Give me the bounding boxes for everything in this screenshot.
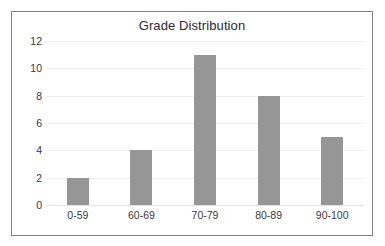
- y-tick-label: 10: [12, 62, 42, 74]
- bar-slot: [300, 41, 364, 205]
- bar[interactable]: [67, 178, 89, 205]
- y-tick-label: 2: [12, 172, 42, 184]
- bar-slot: [237, 41, 301, 205]
- bar-slot: [46, 41, 110, 205]
- chart-frame: Grade Distribution 024681012 0-5960-6970…: [11, 11, 373, 236]
- bar[interactable]: [194, 55, 216, 205]
- y-tick-label: 12: [12, 35, 42, 47]
- x-axis: 0-5960-6970-7980-8990-100: [46, 209, 364, 227]
- bar[interactable]: [258, 96, 280, 205]
- bar[interactable]: [130, 150, 152, 205]
- x-tick-label: 70-79: [192, 209, 219, 221]
- y-tick-label: 8: [12, 90, 42, 102]
- chart-title: Grade Distribution: [12, 18, 372, 33]
- bar-series: [46, 41, 364, 205]
- x-tick-label: 90-100: [316, 209, 349, 221]
- y-tick-label: 6: [12, 117, 42, 129]
- y-tick-label: 4: [12, 144, 42, 156]
- bar[interactable]: [321, 137, 343, 205]
- bar-slot: [110, 41, 174, 205]
- x-tick-label: 60-69: [128, 209, 155, 221]
- x-tick-label: 0-59: [67, 209, 88, 221]
- bar-slot: [173, 41, 237, 205]
- axis-baseline: [46, 205, 364, 206]
- y-tick-label: 0: [12, 199, 42, 211]
- y-axis: 024681012: [12, 41, 42, 205]
- x-tick-label: 80-89: [255, 209, 282, 221]
